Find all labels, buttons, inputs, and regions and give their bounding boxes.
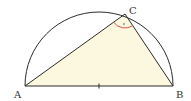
diagram-canvas: A B C (0, 0, 191, 101)
triangle-abc (25, 14, 173, 86)
label-c: C (129, 5, 137, 16)
label-a: A (13, 89, 22, 100)
label-b: B (176, 89, 183, 100)
right-angle-dot (123, 23, 125, 25)
